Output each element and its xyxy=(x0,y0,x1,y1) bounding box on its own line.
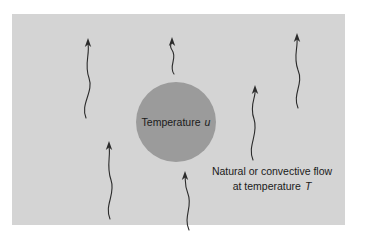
flow-caption-line1: Natural or convective flow xyxy=(212,165,333,177)
flow-caption-line2: at temperatureT xyxy=(233,180,313,192)
sphere-temperature-label: Temperatureu xyxy=(142,116,211,128)
flow-caption-line2-prefix: at temperature xyxy=(233,180,301,192)
figure-root: Temperatureu Natural or convective flow … xyxy=(0,0,365,241)
sphere-temperature-symbol: u xyxy=(205,116,211,128)
sphere-temperature-label-text: Temperature xyxy=(142,116,201,128)
diagram-canvas: Temperatureu Natural or convective flow … xyxy=(0,0,365,241)
